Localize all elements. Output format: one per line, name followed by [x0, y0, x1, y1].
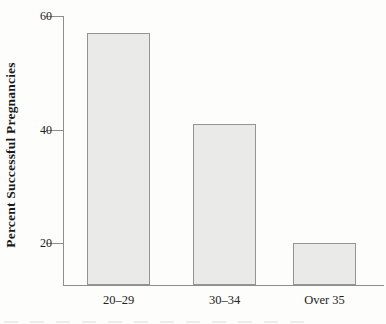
y-tick-label-60: 60 — [22, 9, 52, 23]
y-axis-line — [63, 16, 64, 285]
bar-20–29 — [87, 33, 150, 285]
cutoff-caption-smudge — [4, 321, 304, 323]
x-axis-label-30–34: 30–34 — [185, 293, 265, 308]
x-axis-label-Over 35: Over 35 — [285, 293, 365, 308]
x-axis-label-20–29: 20–29 — [79, 293, 159, 308]
y-tick-label-40: 40 — [22, 123, 52, 137]
bar-chart-figure: Percent Successful Pregnancies 604020 20… — [0, 0, 386, 324]
bar-Over 35 — [293, 243, 356, 285]
x-axis-line — [63, 285, 384, 286]
y-tick-label-20: 20 — [22, 236, 52, 250]
bar-30–34 — [193, 124, 256, 285]
y-axis-title: Percent Successful Pregnancies — [3, 62, 19, 247]
